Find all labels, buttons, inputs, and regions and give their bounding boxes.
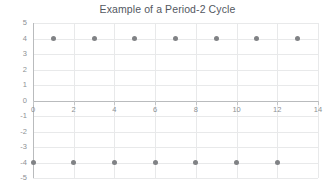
chart-container: Example of a Period-2 Cycle 543210-1-2-3… (0, 0, 335, 189)
data-point (112, 160, 117, 165)
y-tick-label: -4 (1, 159, 27, 167)
x-tick-label: 4 (103, 106, 125, 114)
gridline-horizontal (33, 70, 318, 71)
data-point (132, 36, 137, 41)
y-tick-label: 5 (1, 19, 27, 27)
y-tick-label: 0 (1, 97, 27, 105)
gridline-horizontal (33, 147, 318, 148)
y-tick-label: -2 (1, 128, 27, 136)
x-tick-label: 0 (22, 106, 44, 114)
x-tick-mark (237, 101, 238, 105)
x-tick-mark (74, 101, 75, 105)
x-tick-label: 10 (226, 106, 248, 114)
data-point (71, 160, 76, 165)
y-tick-label: 2 (1, 66, 27, 74)
x-axis-line (33, 101, 318, 102)
x-tick-label: 2 (63, 106, 85, 114)
x-tick-mark (155, 101, 156, 105)
y-tick-label: 1 (1, 81, 27, 89)
x-tick-label: 14 (307, 106, 329, 114)
data-point (173, 36, 178, 41)
data-point (275, 160, 280, 165)
x-tick-label: 12 (266, 106, 288, 114)
data-point (254, 36, 259, 41)
gridline-horizontal (33, 116, 318, 117)
x-tick-mark (277, 101, 278, 105)
gridline-horizontal (33, 85, 318, 86)
data-point (92, 36, 97, 41)
gridline-horizontal (33, 23, 318, 24)
y-tick-label: -3 (1, 143, 27, 151)
plot-area (33, 23, 318, 178)
data-point (31, 160, 36, 165)
x-tick-mark (114, 101, 115, 105)
data-point (295, 36, 300, 41)
x-tick-label: 6 (144, 106, 166, 114)
x-tick-mark (33, 101, 34, 105)
gridline-horizontal (33, 132, 318, 133)
data-point (234, 160, 239, 165)
y-tick-label: -5 (1, 174, 27, 182)
x-tick-label: 8 (185, 106, 207, 114)
y-tick-label: 4 (1, 35, 27, 43)
x-tick-mark (318, 101, 319, 105)
data-point (153, 160, 158, 165)
data-point (193, 160, 198, 165)
data-point (214, 36, 219, 41)
x-tick-mark (196, 101, 197, 105)
gridline-horizontal (33, 54, 318, 55)
gridline-horizontal (33, 178, 318, 179)
chart-title: Example of a Period-2 Cycle (0, 3, 335, 15)
data-point (51, 36, 56, 41)
y-tick-label: 3 (1, 50, 27, 58)
